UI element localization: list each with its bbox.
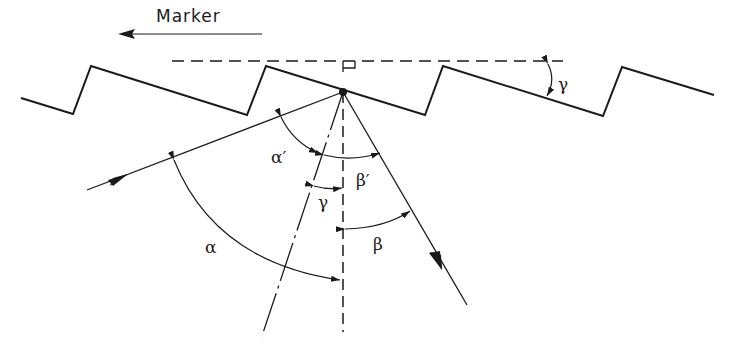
gamma-mid-arc xyxy=(314,186,342,189)
gamma-top-arc xyxy=(547,64,552,96)
beta-prime-arc xyxy=(324,153,380,158)
right-angle-icon xyxy=(343,61,355,72)
reflection-point xyxy=(339,88,347,96)
diffracted-arrowhead xyxy=(429,251,442,270)
grating-sawtooth xyxy=(21,66,714,116)
gamma-mid-label: γ xyxy=(318,192,328,212)
diffracted-ray xyxy=(343,92,467,305)
beta-prime-label: β′ xyxy=(356,170,370,190)
beta-label: β xyxy=(373,234,383,254)
gamma-top-label: γ xyxy=(558,74,568,94)
alpha-prime-label: α′ xyxy=(271,147,286,167)
alpha-prime-arc xyxy=(281,117,318,153)
beta-arc xyxy=(345,211,410,229)
grating-diagram: Marker γ α′ β′ γ β α xyxy=(0,0,732,362)
marker-label: Marker xyxy=(156,6,221,26)
alpha-label: α xyxy=(205,237,217,257)
facet-normal-line xyxy=(262,92,343,336)
marker-arrow-icon xyxy=(118,29,262,39)
